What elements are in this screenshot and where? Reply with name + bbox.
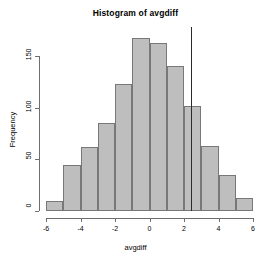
histogram-bar bbox=[63, 165, 80, 212]
y-tick-mark bbox=[35, 159, 39, 160]
x-tick-label: -4 bbox=[69, 224, 93, 233]
x-tick-label: -6 bbox=[34, 224, 58, 233]
histogram-bar bbox=[150, 43, 167, 211]
y-axis-line bbox=[39, 56, 40, 211]
y-tick-mark bbox=[35, 56, 39, 57]
y-tick-mark bbox=[35, 108, 39, 109]
chart-title: Histogram of avgdiff bbox=[0, 8, 271, 18]
x-tick-mark bbox=[253, 218, 254, 222]
histogram-bar bbox=[167, 66, 184, 211]
x-tick-label: 2 bbox=[172, 224, 196, 233]
x-axis-title: avgdiff bbox=[0, 243, 271, 252]
plot-area bbox=[46, 30, 253, 211]
y-tick-label: 50 bbox=[24, 152, 33, 166]
histogram-bar bbox=[98, 123, 115, 211]
histogram-plot: Histogram of avgdiff -6-4-20246 05010015… bbox=[0, 0, 271, 264]
x-tick-label: 4 bbox=[207, 224, 231, 233]
x-tick-mark bbox=[184, 218, 185, 222]
y-axis-title: Frequency bbox=[8, 100, 17, 160]
histogram-bar bbox=[201, 146, 218, 211]
y-tick-label: 0 bbox=[24, 204, 33, 218]
histogram-bar bbox=[132, 38, 149, 211]
y-tick-label: 100 bbox=[24, 100, 33, 114]
x-tick-mark bbox=[150, 218, 151, 222]
histogram-bar bbox=[219, 175, 236, 211]
x-tick-label: -2 bbox=[103, 224, 127, 233]
x-tick-mark bbox=[46, 218, 47, 222]
x-tick-label: 0 bbox=[138, 224, 162, 233]
reference-vertical-line bbox=[191, 27, 192, 211]
histogram-bar bbox=[236, 198, 253, 211]
histogram-bar bbox=[46, 201, 63, 211]
x-tick-mark bbox=[219, 218, 220, 222]
x-tick-mark bbox=[81, 218, 82, 222]
y-tick-label: 150 bbox=[24, 49, 33, 63]
histogram-bar bbox=[184, 106, 201, 211]
x-tick-label: 6 bbox=[241, 224, 265, 233]
y-tick-mark bbox=[35, 211, 39, 212]
x-tick-mark bbox=[115, 218, 116, 222]
histogram-bar bbox=[115, 84, 132, 211]
histogram-bar bbox=[81, 147, 98, 211]
